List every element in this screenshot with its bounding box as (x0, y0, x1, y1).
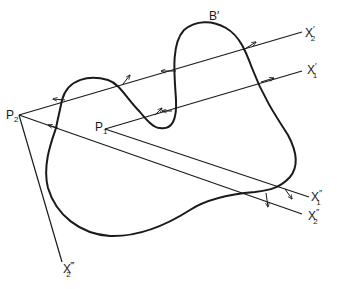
closed-curve-b-prime (46, 22, 296, 236)
point-label-p1: P1 (95, 120, 108, 136)
ray-p2-x2-double-prime (19, 115, 302, 214)
point-label-p2: P2 (6, 108, 19, 124)
ray-p2-x2-prime (19, 32, 302, 115)
ray-label-x2-triple-prime: X‴2 (63, 260, 75, 279)
ray-p2-x2-triple-prime (19, 115, 62, 262)
ray-label-x1-double-prime: X″1 (311, 188, 323, 207)
curve-label-b-prime: B′ (209, 9, 220, 23)
ray-p1-x1-double-prime (105, 129, 309, 197)
ray-label-x2-double-prime: X″2 (308, 207, 320, 226)
ray-p1-x1-prime (105, 71, 302, 129)
diagram-canvas: P2 P1 B′ X′2 X′1 X″1 X″2 X‴2 (0, 0, 338, 289)
ray-label-x1-prime: X′1 (307, 61, 318, 80)
ray-label-x2-prime: X′2 (305, 24, 316, 43)
